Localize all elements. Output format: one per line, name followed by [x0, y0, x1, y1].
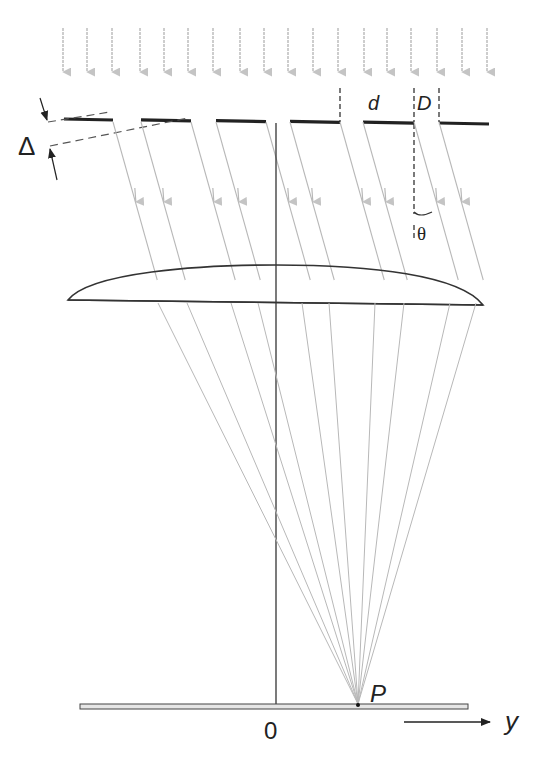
grating-bar — [290, 121, 340, 122]
diffracted-rays — [113, 122, 483, 280]
grating-bar — [216, 121, 266, 122]
converging-ray — [358, 303, 476, 704]
label-theta: θ — [417, 223, 426, 244]
converging-ray — [358, 303, 375, 704]
focal-point-dot — [356, 703, 360, 707]
diffracted-ray — [113, 122, 157, 280]
diffracted-ray — [266, 122, 310, 280]
grating-bar — [141, 120, 191, 121]
screen — [80, 704, 468, 709]
diffracted-ray — [439, 122, 483, 280]
label-d: d — [368, 92, 380, 114]
diffracted-ray — [414, 122, 458, 280]
diffracted-ray — [340, 122, 384, 280]
converging-ray — [358, 303, 450, 704]
diffracted-ray — [216, 122, 260, 280]
converging-ray — [302, 303, 358, 704]
grating-bar — [64, 119, 113, 120]
converging-rays — [158, 303, 476, 704]
grating-bar — [439, 123, 489, 124]
label-y-axis: y — [503, 706, 520, 736]
angle-arc — [414, 212, 432, 215]
converging-ray — [158, 303, 358, 704]
diffracted-ray — [290, 122, 334, 280]
diffracted-ray — [191, 122, 235, 280]
delta-arrows — [40, 98, 57, 180]
incident-light-arrows — [63, 28, 487, 72]
label-origin: 0 — [264, 717, 277, 744]
diffraction-diagram: d D θ Δ P 0 y — [0, 0, 547, 760]
converging-ray — [358, 303, 404, 704]
label-P: P — [370, 680, 386, 707]
diffracted-ray — [141, 122, 185, 280]
converging-ray — [231, 303, 358, 704]
label-D: D — [417, 92, 431, 114]
grating-bar — [363, 122, 414, 123]
label-delta: Δ — [18, 131, 35, 161]
diffracted-ray — [363, 122, 407, 280]
